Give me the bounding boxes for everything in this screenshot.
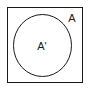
outer-set-label: A — [68, 12, 76, 24]
inner-set-label: A' — [37, 40, 46, 52]
set-diagram-figure: A A' — [0, 0, 90, 90]
set-diagram-svg: A A' — [0, 0, 90, 90]
